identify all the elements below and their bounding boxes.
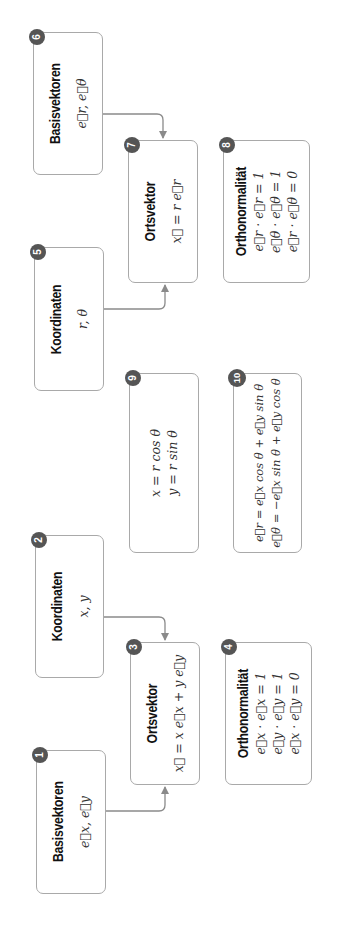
node-formula-line: e⃗y · e⃗y = 1 [269,672,286,754]
node-formula-line: e⃗θ = −e⃗x sin θ + e⃗y cos θ [268,378,285,547]
node-formula: e⃗r, e⃗θ [73,79,90,129]
node-formula-line: y = r sin θ [164,430,181,495]
node-formula: x⃗ = x e⃗x + y e⃗y [170,655,187,772]
node-formula: x⃗ = r e⃗r [168,180,185,244]
node-title: Ortsvektor [141,182,158,242]
step-badge: 4 [221,639,237,655]
node-title: Basisvektoren [46,63,63,144]
step-badge: 2 [31,532,47,548]
node-basisvektoren-polar: Basisvektoren e⃗r, e⃗θ 6 [33,32,103,175]
step-badge: 6 [29,29,45,45]
node-koordinaten-cartesian: Koordinaten x, y 2 [35,535,104,678]
step-badge: 5 [30,244,46,260]
step-badge: 7 [124,137,140,153]
node-formula: e⃗x, e⃗y [76,796,93,848]
node-title: Basisvektoren [49,782,66,863]
arrow-2-to-3 [104,617,165,640]
node-coordinate-transformation: x = r cos θ y = r sin θ 9 [129,373,199,553]
node-formula-line: e⃗θ · e⃗θ = 1 [267,170,284,253]
concept-diagram: Basisvektoren e⃗x, e⃗y 1 Koordinaten x, … [0,0,338,929]
node-koordinaten-polar: Koordinaten r, θ 5 [34,247,104,391]
node-ortsvektor-cartesian: Ortsvektor x⃗ = x e⃗x + y e⃗y 3 [130,642,200,785]
step-badge: 8 [219,137,235,153]
node-formula-line: e⃗r · e⃗θ = 0 [284,171,301,253]
node-title: Koordinaten [47,284,64,354]
node-basis-transformation: e⃗r = e⃗x cos θ + e⃗y sin θ e⃗θ = −e⃗x s… [233,373,302,553]
step-badge: 1 [32,747,48,763]
node-formula: r, θ [74,309,91,329]
node-formula-line: e⃗x · e⃗y = 0 [286,672,303,754]
node-formula-line: e⃗r · e⃗r = 1 [250,171,267,251]
node-orthonormalitaet-cartesian: Orthonormalität e⃗x · e⃗x = 1 e⃗y · e⃗y … [225,642,312,785]
node-basisvektoren-cartesian: Basisvektoren e⃗x, e⃗y 1 [36,750,106,894]
node-ortsvektor-polar: Ortsvektor x⃗ = r e⃗r 7 [128,140,198,283]
node-title: Orthonormalität [234,669,251,758]
arrow-1-to-3 [106,787,165,811]
arrow-6-to-7 [103,114,163,138]
node-formula-line: e⃗x · e⃗x = 1 [252,672,269,754]
node-formula: x, y [75,595,92,617]
node-title: Orthonormalität [232,167,249,256]
step-badge: 9 [125,370,141,386]
node-orthonormalitaet-polar: Orthonormalität e⃗r · e⃗r = 1 e⃗θ · e⃗θ … [223,140,310,283]
step-badge: 3 [126,639,142,655]
node-formula-line: e⃗r = e⃗x cos θ + e⃗y sin θ [251,384,268,542]
step-badge: 10 [228,369,246,387]
node-title: Koordinaten [48,572,65,642]
arrow-5-to-7 [104,285,165,309]
node-formula-line: x = r cos θ [147,429,164,497]
node-title: Ortsvektor [143,684,160,744]
